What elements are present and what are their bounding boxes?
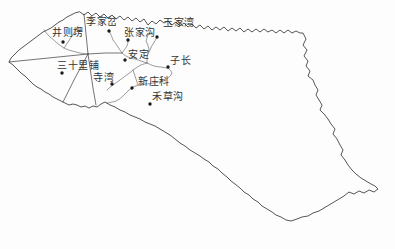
station-label: 寺湾 <box>93 71 114 83</box>
station-dot <box>148 102 151 105</box>
basin-boundary <box>9 12 378 221</box>
divide-line <box>88 53 122 54</box>
station-dot <box>126 38 129 41</box>
station-dot <box>155 35 158 38</box>
basin-map-figure: 李家岔张家沟玉家湾井则塄三十里铺安定子长寺湾新庄科禾草沟 <box>0 0 395 249</box>
station-dot <box>130 86 133 89</box>
station-label: 安定 <box>128 48 149 60</box>
station-label: 子长 <box>170 55 191 66</box>
stations-layer: 李家岔张家沟玉家湾井则塄三十里铺安定子长寺湾新庄科禾草沟 <box>52 15 195 106</box>
station-label: 三十里铺 <box>57 59 99 71</box>
station-dot <box>60 71 63 74</box>
station-dot <box>123 58 126 61</box>
station-label: 禾草沟 <box>152 90 184 102</box>
station-label: 玉家湾 <box>163 16 195 28</box>
station-label: 张家沟 <box>124 26 156 38</box>
station-dot <box>61 40 64 43</box>
station-label: 新庄科 <box>138 75 170 87</box>
station-label: 李家岔 <box>86 15 118 27</box>
basin-map-canvas: 李家岔张家沟玉家湾井则塄三十里铺安定子长寺湾新庄科禾草沟 <box>0 0 395 249</box>
station-label: 井则塄 <box>52 26 84 38</box>
station-dot <box>107 29 110 32</box>
